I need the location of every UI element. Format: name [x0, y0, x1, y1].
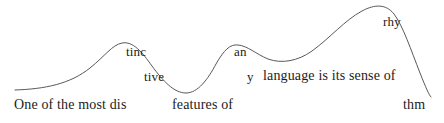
label-y: y: [247, 70, 254, 83]
label-tinc: tinc: [126, 45, 146, 58]
label-one-of-the-most-dis: One of the most dis: [14, 98, 127, 112]
label-rhy: rhy: [383, 15, 401, 28]
contour-line: [15, 6, 431, 97]
label-language-is-its-sense-of: language is its sense of: [263, 69, 396, 83]
label-thm: thm: [403, 98, 425, 112]
pitch-contour-figure: One of the most dis tinc tive features o…: [0, 0, 444, 123]
label-tive: tive: [144, 70, 164, 83]
label-an: an: [234, 45, 247, 58]
label-features-of: features of: [172, 98, 233, 112]
